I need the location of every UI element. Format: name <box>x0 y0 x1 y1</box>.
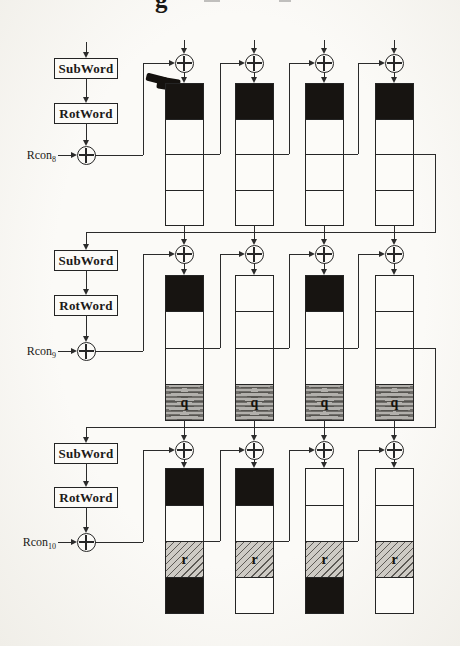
r-cell-label: r <box>181 553 187 567</box>
flow-line <box>289 450 290 541</box>
q-cell-label: q <box>251 396 259 410</box>
word-cell: r <box>375 541 414 578</box>
flow-line <box>394 40 395 48</box>
word-cell <box>375 348 414 385</box>
flow-line <box>358 254 379 255</box>
flow-line <box>86 427 87 437</box>
word-cell <box>375 505 414 542</box>
rcon-label: Rcon9 <box>27 343 56 364</box>
word-cell <box>165 505 204 542</box>
word-cell <box>235 83 274 120</box>
rcon-subscript: 9 <box>52 351 56 360</box>
rcon-xor <box>77 533 96 552</box>
word-cell <box>165 119 204 155</box>
xor-node <box>385 441 404 460</box>
feedback-line <box>412 348 436 349</box>
xor-node <box>315 245 334 264</box>
word-cell <box>235 468 274 506</box>
word-cell <box>235 154 274 191</box>
word-cell: r <box>305 541 344 578</box>
arrowhead-right <box>71 539 77 545</box>
xor-node <box>245 441 264 460</box>
word-cell <box>305 468 344 506</box>
arrowhead-down <box>181 48 187 54</box>
subword-box-label: SubWord <box>59 446 114 462</box>
word-cell <box>305 311 344 349</box>
rcon-label-text: Rcon <box>23 535 48 549</box>
flow-line <box>220 63 221 154</box>
word-cell <box>305 577 344 614</box>
flow-line <box>143 450 144 542</box>
rcon-xor <box>77 342 96 361</box>
word-cell <box>305 190 344 226</box>
flow-line <box>289 450 309 451</box>
arrowhead-down <box>321 48 327 54</box>
flow-line <box>86 78 87 97</box>
feedback-line <box>435 154 436 232</box>
word-cell <box>375 577 414 614</box>
word-cell <box>235 505 274 542</box>
word-cell <box>305 154 344 191</box>
flow-line <box>143 254 169 255</box>
xor-node <box>245 54 264 73</box>
rotword-box-label: RotWord <box>59 298 112 314</box>
word-cell <box>235 311 274 349</box>
feedback-line <box>435 348 436 427</box>
xor-node <box>385 245 404 264</box>
caption-crop-mark <box>279 0 291 2</box>
arrowhead-right <box>71 152 77 158</box>
q-cell-label: q <box>391 396 399 410</box>
flow-line <box>289 63 309 64</box>
word-cell <box>305 119 344 155</box>
flow-line <box>289 254 290 348</box>
xor-node <box>175 245 194 264</box>
arrowhead-down <box>251 48 257 54</box>
word-cell <box>375 275 414 312</box>
rotword-box: RotWord <box>54 295 118 316</box>
word-cell <box>305 83 344 120</box>
flow-line <box>95 351 143 352</box>
flow-line <box>58 155 71 156</box>
word-cell <box>165 83 204 120</box>
flow-line <box>220 254 221 348</box>
subword-box: SubWord <box>54 58 118 79</box>
flow-line <box>272 154 289 155</box>
flow-line <box>95 542 143 543</box>
word-cell <box>235 275 274 312</box>
flow-line <box>358 450 379 451</box>
word-cell: q <box>305 384 344 421</box>
word-cell <box>305 348 344 385</box>
xor-node <box>315 441 334 460</box>
flow-line <box>342 154 358 155</box>
subword-box-label: SubWord <box>59 253 114 269</box>
word-cell <box>165 311 204 349</box>
arrowhead-down <box>391 48 397 54</box>
word-cell <box>165 275 204 312</box>
flow-line <box>342 348 358 349</box>
subword-box-label: SubWord <box>59 61 114 77</box>
diagram-canvas: g SubWordRotWordRcon8SubWordRotWordRcon9… <box>0 0 460 646</box>
flow-line <box>184 40 185 48</box>
word-cell <box>165 577 204 614</box>
rotword-box-label: RotWord <box>59 490 112 506</box>
flow-line <box>272 348 289 349</box>
word-cell <box>375 468 414 506</box>
word-cell <box>165 154 204 191</box>
word-cell <box>165 468 204 506</box>
flow-line <box>86 315 87 336</box>
word-cell <box>375 311 414 349</box>
rcon-subscript: 10 <box>48 542 56 551</box>
q-cell-label: q <box>321 396 329 410</box>
flow-line <box>254 40 255 48</box>
rcon-label: Rcon8 <box>27 147 56 168</box>
r-cell-label: r <box>251 553 257 567</box>
flow-line <box>220 450 221 541</box>
flow-line <box>86 463 87 481</box>
flow-line <box>358 63 359 154</box>
word-cell <box>235 577 274 614</box>
flow-line <box>95 155 143 156</box>
word-cell <box>375 119 414 155</box>
word-cell: q <box>165 384 204 421</box>
xor-node <box>315 54 334 73</box>
r-cell-label: r <box>321 553 327 567</box>
